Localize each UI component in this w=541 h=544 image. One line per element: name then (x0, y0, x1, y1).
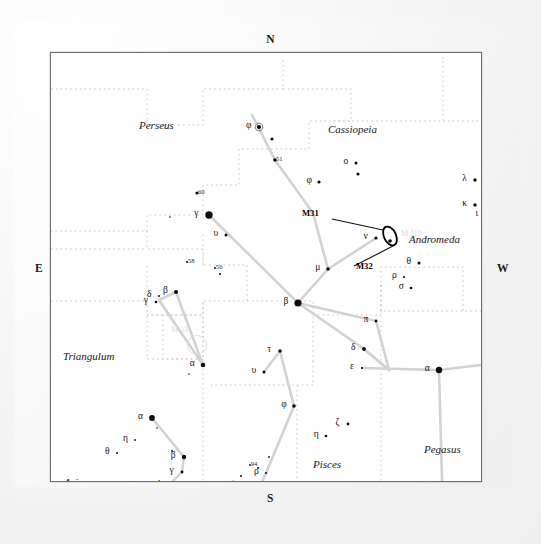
star-label: ζ (336, 417, 340, 427)
star-label: ν (363, 231, 367, 241)
star-label: θ (105, 446, 110, 456)
star-label: φ (246, 120, 251, 130)
star-label: υ (214, 228, 219, 238)
ghost-mark-m110: M 110 (401, 229, 422, 238)
star-label: δ (351, 342, 355, 352)
star-label: γ (170, 465, 174, 475)
star-chart-frame: Perseus Cassiopeia Andromeda Triangulum … (50, 52, 482, 482)
star-label: θ (407, 256, 412, 266)
compass-label-north: N (0, 33, 541, 45)
star-label: β (171, 450, 176, 460)
star-label: σ (399, 281, 404, 291)
star-label: μ (315, 262, 320, 272)
star-label: ι (476, 208, 479, 218)
star-label: ο (344, 156, 349, 166)
star-label: 60 (198, 188, 205, 195)
star-label: η (123, 433, 128, 443)
star-label: ρ (254, 466, 259, 476)
star-label: γ (144, 295, 148, 305)
star-label: β (283, 296, 288, 306)
compass-label-west: W (494, 262, 512, 274)
star-label: τ (267, 344, 271, 354)
dso-label-m32: M32 (356, 261, 373, 271)
star-label: η (314, 429, 319, 439)
ghost-mark-m33: M 33 (171, 325, 188, 334)
star-label: υ (252, 365, 257, 375)
star-label: α (425, 363, 430, 373)
star-label: κ (462, 198, 467, 208)
star-label: α (138, 411, 143, 421)
star-label: β (163, 285, 168, 295)
compass-label-south: S (0, 492, 541, 504)
star-label: φ (281, 399, 286, 409)
star-label: γ (194, 208, 198, 218)
compass-label-east: E (30, 262, 48, 274)
dso-label-m31: M31 (302, 208, 319, 218)
star-label: ε (350, 361, 354, 371)
star-label: ι (158, 477, 161, 482)
star-label: 58 (188, 257, 195, 264)
star-label: 51 (276, 155, 283, 162)
ghost-circle-1 (187, 335, 207, 355)
star-label: 56 (216, 263, 223, 270)
star-label: α (190, 358, 195, 368)
messier-leader-lines (51, 53, 481, 481)
star-label: ρ (392, 270, 397, 280)
star-label: λ (462, 173, 467, 183)
star-label: φ (306, 175, 311, 185)
star-label: π (364, 314, 369, 324)
